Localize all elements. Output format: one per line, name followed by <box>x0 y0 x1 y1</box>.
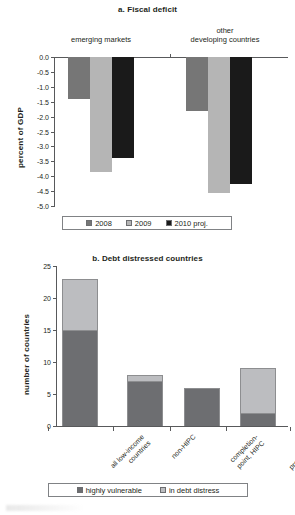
chart-a-plot-area: 0.0-0.5-1.0-1.5-2.0-2.5-3.0-3.5-4.0-4.5-… <box>0 0 295 240</box>
chart-a-y-tick-mark <box>51 132 54 133</box>
chart-a-bar <box>230 57 252 184</box>
chart-b-x-category-line: non-HIPC <box>170 433 198 461</box>
chart-b-y-tick-label: 25 <box>43 263 51 270</box>
legend-label-highly-vulnerable: highly vulnerable <box>86 486 142 495</box>
legend-label-2008: 2008 <box>95 219 112 228</box>
chart-b-y-tick-label: 15 <box>43 327 51 334</box>
chart-a-bar <box>208 57 230 193</box>
chart-a-bar <box>90 57 112 172</box>
chart-b-y-tick-mark <box>53 266 56 267</box>
chart-a-bar <box>186 57 208 111</box>
legend-item-2009: 2009 <box>126 219 152 228</box>
legend-swatch-2008 <box>86 220 92 226</box>
chart-b-y-tick-mark <box>53 330 56 331</box>
chart-a-y-tick-mark <box>51 146 54 147</box>
debt-distressed-countries-chart: b. Debt distressed countries number of c… <box>0 240 295 515</box>
legend-swatch-2010-proj <box>166 220 172 226</box>
legend-swatch-in-debt-distress <box>160 487 166 493</box>
chart-a-y-tick-label: -3.5 <box>37 158 49 165</box>
chart-a-y-tick-mark <box>51 72 54 73</box>
chart-b-y-axis <box>56 266 57 427</box>
chart-a-y-tick-mark <box>51 102 54 103</box>
legend-item-2010-proj: 2010 proj. <box>166 219 208 228</box>
legend-swatch-2009 <box>126 220 132 226</box>
legend-label-in-debt-distress: in debt distress <box>169 486 219 495</box>
chart-b-y-tick-mark <box>53 298 56 299</box>
chart-b-plot-area: 2520151050all low-incomecountriesnon-HIP… <box>0 240 295 515</box>
chart-b-x-tick-mark <box>226 427 227 431</box>
chart-a-y-tick-mark <box>51 57 54 58</box>
chart-a-y-tick-label: -4.0 <box>37 173 49 180</box>
legend-item-highly-vulnerable: highly vulnerable <box>77 486 142 495</box>
chart-a-y-tick-label: -2.5 <box>37 128 49 135</box>
chart-b-bar-segment <box>184 388 220 426</box>
legend-swatch-highly-vulnerable <box>77 487 83 493</box>
chart-b-bar-segment <box>127 381 163 426</box>
chart-b-x-tick-mark <box>48 427 49 431</box>
chart-a-y-tick-label: 0.0 <box>39 54 49 61</box>
chart-b-x-category-label: all low-incomecountries <box>109 433 152 476</box>
chart-b-y-tick-label: 5 <box>47 391 51 398</box>
chart-b-y-tick-label: 20 <box>43 295 51 302</box>
chart-b-bar-segment <box>240 368 276 413</box>
scan-artifact <box>6 505 116 511</box>
chart-a-y-axis <box>54 57 55 207</box>
fiscal-deficit-chart: a. Fiscal deficit percent of GDP emergin… <box>0 0 295 240</box>
legend-label-2010-proj: 2010 proj. <box>175 219 208 228</box>
legend-label-2009: 2009 <box>135 219 152 228</box>
chart-a-y-tick-mark <box>51 117 54 118</box>
chart-b-y-tick-mark <box>53 426 56 427</box>
chart-a-y-tick-mark <box>51 206 54 207</box>
chart-a-y-tick-mark <box>51 176 54 177</box>
chart-b-y-tick-mark <box>53 362 56 363</box>
chart-a-y-tick-mark <box>51 87 54 88</box>
chart-a-y-tick-mark <box>51 191 54 192</box>
chart-b-bar-segment <box>62 330 98 426</box>
chart-a-y-tick-mark <box>51 161 54 162</box>
chart-b-bar-segment <box>62 279 98 330</box>
chart-b-x-tick-mark-end <box>290 427 291 431</box>
chart-b-y-tick-label: 10 <box>43 359 51 366</box>
chart-b-legend: highly vulnerable in debt distress <box>48 483 248 497</box>
chart-b-x-tick-mark <box>113 427 114 431</box>
chart-b-bar-segment <box>240 413 276 426</box>
chart-a-y-tick-label: -5.0 <box>37 203 49 210</box>
chart-a-y-tick-label: -4.5 <box>37 188 49 195</box>
chart-a-y-tick-label: -0.5 <box>37 68 49 75</box>
chart-b-x-category-label: precompletion-point, HIPC <box>288 433 295 478</box>
chart-a-y-tick-label: -3.0 <box>37 143 49 150</box>
chart-a-y-tick-label: -2.0 <box>37 113 49 120</box>
chart-a-bar <box>112 57 134 158</box>
chart-b-x-category-label: completion-point, HIPC <box>229 433 267 471</box>
chart-a-bar <box>68 57 90 99</box>
chart-b-x-axis <box>56 426 288 427</box>
chart-b-x-category-label: non-HIPC <box>170 433 198 461</box>
chart-b-x-category-line: precompletion- <box>288 433 295 472</box>
chart-a-y-tick-label: -1.5 <box>37 98 49 105</box>
legend-item-in-debt-distress: in debt distress <box>160 486 219 495</box>
legend-item-2008: 2008 <box>86 219 112 228</box>
chart-b-y-tick-mark <box>53 394 56 395</box>
chart-a-legend: 2008 2009 2010 proj. <box>62 216 232 230</box>
chart-a-group-separator-tick <box>170 54 171 57</box>
chart-b-x-tick-mark <box>170 427 171 431</box>
chart-b-bar-segment <box>127 375 163 381</box>
chart-a-y-tick-label: -1.0 <box>37 83 49 90</box>
